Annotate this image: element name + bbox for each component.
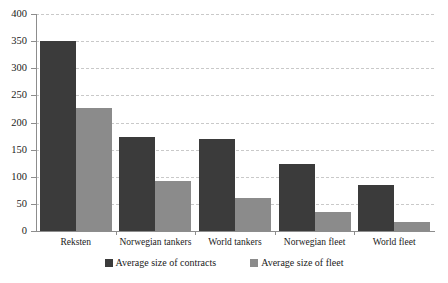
bar-group [116,14,196,231]
legend-swatch-icon [250,259,258,267]
bar [394,222,430,231]
x-axis-tick [195,231,196,235]
legend-item: Average size of fleet [250,256,343,269]
y-axis-tick-label: 350 [11,34,27,47]
bar-chart: 050100150200250300350400 RekstenNorwegia… [0,0,448,283]
y-axis-tick-label: 300 [11,61,27,74]
bar-group [195,14,275,231]
bar [235,198,271,231]
y-axis-tick-label: 0 [22,224,27,237]
bar [76,108,112,231]
bar [279,164,315,231]
y-axis-tick-label: 100 [11,170,27,183]
legend-item: Average size of contracts [105,256,217,269]
legend-label: Average size of fleet [261,256,343,269]
legend-label: Average size of contracts [116,256,217,269]
x-axis-category-label: Norwegian tankers [116,236,196,248]
x-axis-category-label: Norwegian fleet [275,236,355,248]
bars-layer [36,14,434,231]
bar [155,181,191,231]
x-axis-line [36,231,435,232]
bar [358,185,394,231]
y-axis-tick-label: 50 [17,197,28,210]
x-axis-category-label: World tankers [195,236,275,248]
x-axis-tick [275,231,276,235]
bar [199,139,235,231]
bar [40,41,76,231]
y-axis-tick-label: 250 [11,88,27,101]
chart-legend: Average size of contractsAverage size of… [0,256,448,269]
bar [315,212,351,231]
legend-swatch-icon [105,259,113,267]
bar-group [36,14,116,231]
bar-group [275,14,355,231]
x-axis-tick [116,231,117,235]
bar [119,137,155,231]
bar-group [354,14,434,231]
x-axis-category-label: Reksten [36,236,116,248]
x-axis-category-label: World fleet [354,236,434,248]
y-axis-tick-label: 400 [11,7,27,20]
y-axis-tick-label: 200 [11,116,27,129]
x-axis-tick [354,231,355,235]
y-axis-tick-label: 150 [11,143,27,156]
